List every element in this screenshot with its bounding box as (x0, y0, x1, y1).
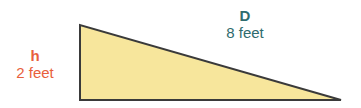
height-label: h 2 feet (6, 48, 64, 81)
distance-variable: D (205, 8, 285, 25)
triangle-diagram: h 2 feet D 8 feet (0, 0, 361, 108)
height-value: 2 feet (6, 65, 64, 82)
distance-label: D 8 feet (205, 8, 285, 41)
height-variable: h (6, 48, 64, 65)
distance-value: 8 feet (205, 25, 285, 42)
